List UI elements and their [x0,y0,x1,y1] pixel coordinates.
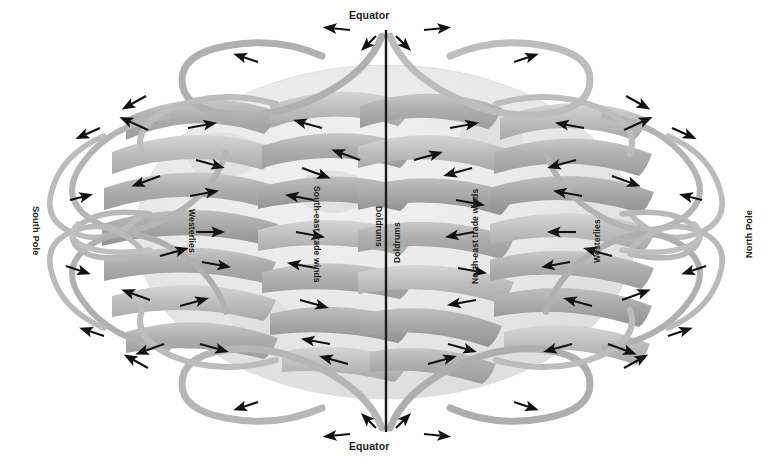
label-south-east-trade-winds: South-east trade winds [312,186,321,283]
label-doldrums-right: Doldrums [393,222,402,263]
label-equator-top: Equator [349,10,389,21]
label-westerlies-north: Westerlies [593,219,602,263]
label-doldrums-left: Doldrums [374,206,383,247]
label-north-east-trade-winds: North-east trade winds [471,189,480,284]
label-westerlies-south: Westerlies [187,209,196,253]
label-south-pole: South Pole [31,206,40,256]
circulation-illustration [0,0,773,464]
diagram-canvas: Equator Equator South Pole North Pole We… [0,0,773,464]
label-equator-bottom: Equator [349,441,389,452]
label-north-pole: North Pole [745,210,754,258]
